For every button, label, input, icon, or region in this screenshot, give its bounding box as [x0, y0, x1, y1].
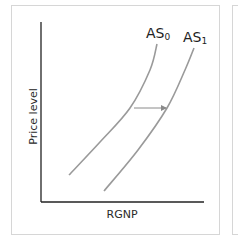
x-axis-title: RGNP	[100, 208, 144, 221]
as0-label: AS0	[146, 25, 170, 42]
y-axis-title: Price level	[27, 87, 40, 147]
as1-label: AS1	[183, 29, 207, 46]
as0-curve	[69, 44, 157, 175]
as1-curve	[104, 48, 194, 191]
